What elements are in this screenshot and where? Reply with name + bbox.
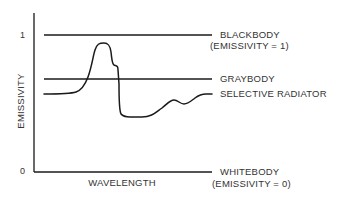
y-axis-label: EMISSIVITY bbox=[15, 73, 26, 129]
emissivity-diagram: 1 0 EMISSIVITY WAVELENGTH BLACKBODY (EMI… bbox=[0, 0, 338, 197]
graybody-label: GRAYBODY bbox=[220, 73, 275, 84]
whitebody-sublabel: (EMISSIVITY = 0) bbox=[212, 178, 291, 189]
whitebody-label: WHITEBODY bbox=[220, 166, 280, 177]
selective-radiator-curve bbox=[44, 43, 212, 117]
x-axis-label: WAVELENGTH bbox=[88, 177, 155, 188]
y-tick-0: 0 bbox=[20, 166, 25, 176]
selective-radiator-label: SELECTIVE RADIATOR bbox=[220, 88, 327, 99]
blackbody-sublabel: (EMISSIVITY = 1) bbox=[210, 40, 289, 51]
blackbody-label: BLACKBODY bbox=[220, 29, 280, 40]
y-tick-1: 1 bbox=[20, 30, 25, 40]
